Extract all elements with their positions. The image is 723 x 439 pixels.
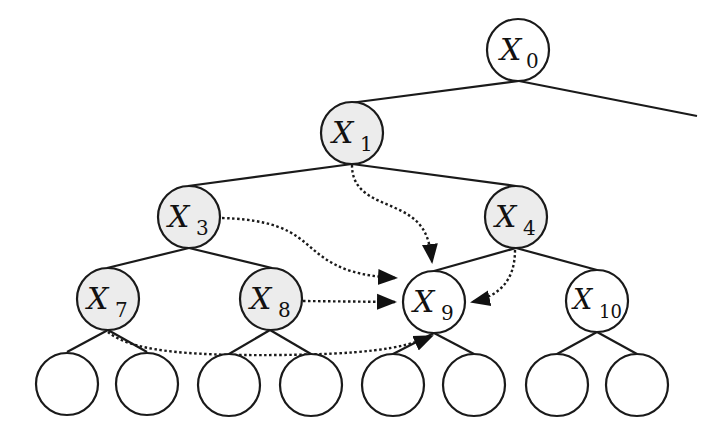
nodes: X 0 X 1 X 3 X 4 X 7 X 8 X — [36, 19, 668, 416]
edge-x10-leaf8 — [597, 332, 637, 354]
edge-x3-x7 — [107, 248, 189, 268]
arrow-x8-x9 — [303, 301, 395, 302]
edge-x7-leaf1 — [67, 330, 108, 352]
edge-x8-leaf3 — [229, 330, 270, 354]
arrow-x7-x9 — [108, 332, 432, 355]
tree-diagram: X 0 X 1 X 3 X 4 X 7 X 8 X — [0, 0, 723, 439]
node-x1: X 1 — [321, 102, 383, 164]
node-x3-letter: X — [166, 199, 191, 234]
arrow-x3-x9 — [222, 218, 396, 278]
leaf-node — [116, 353, 178, 415]
node-x0-letter: X — [498, 32, 523, 67]
edge-x0-right — [519, 81, 697, 116]
leaf-node — [280, 354, 342, 416]
edge-x9-leaf5 — [393, 333, 434, 354]
edge-x9-leaf6 — [434, 333, 474, 354]
leaf-node — [198, 354, 260, 416]
edge-x7-leaf2 — [108, 330, 147, 352]
node-x7: X 7 — [77, 268, 139, 330]
leaf-node — [606, 354, 668, 416]
node-x9-letter: X — [411, 284, 436, 319]
node-x4-letter: X — [493, 199, 518, 234]
arrow-x1-x9 — [352, 165, 432, 262]
edge-x0-x1 — [350, 81, 519, 103]
node-x0: X 0 — [487, 19, 549, 81]
node-x3-subscript: 3 — [196, 216, 209, 240]
node-x8: X 8 — [240, 268, 302, 330]
node-x10-subscript: 10 — [599, 301, 622, 322]
node-x10-letter: X — [571, 284, 594, 315]
node-x1-subscript: 1 — [360, 132, 373, 156]
edge-x1-x4 — [352, 164, 516, 186]
node-x7-letter: X — [85, 281, 110, 316]
edge-x8-leaf4 — [270, 330, 311, 354]
node-x3: X 3 — [158, 186, 220, 248]
node-x9: X 9 — [403, 271, 465, 333]
node-x4-subscript: 4 — [523, 216, 536, 240]
edge-x10-leaf7 — [557, 332, 597, 354]
edge-x3-x8 — [189, 248, 272, 268]
node-x7-subscript: 7 — [115, 298, 128, 322]
node-x10: X 10 — [566, 270, 628, 332]
node-x4: X 4 — [485, 186, 547, 248]
edge-x4-x9 — [434, 248, 516, 271]
node-x0-subscript: 0 — [526, 49, 539, 73]
node-x9-subscript: 9 — [441, 301, 454, 325]
node-x8-letter: X — [248, 281, 273, 316]
node-x1-letter: X — [330, 115, 355, 150]
leaf-node — [443, 354, 505, 416]
leaf-node — [36, 353, 98, 415]
leaf-node — [362, 354, 424, 416]
node-x8-subscript: 8 — [278, 298, 291, 322]
edge-x1-x3 — [188, 164, 352, 186]
leaf-node — [526, 354, 588, 416]
edge-x4-x10 — [516, 248, 597, 270]
